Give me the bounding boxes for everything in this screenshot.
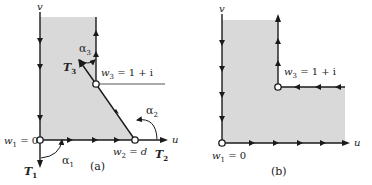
label-t2: T2 [155, 148, 168, 163]
point-w3-b [275, 84, 281, 90]
label-t1: T1 [24, 165, 37, 180]
alpha1-arc-icon [41, 140, 62, 158]
label-w3-a: w3 = 1 + i [101, 67, 153, 81]
arrow-up-icon [275, 14, 281, 22]
t1-arrow-icon [37, 160, 43, 168]
v-axis-label-b: v [219, 3, 225, 14]
label-w2-a: w2 = d [113, 146, 147, 160]
shaded-region-b [222, 20, 345, 143]
alpha2-arc-icon [137, 120, 157, 139]
point-w2-a [132, 137, 138, 143]
point-w3-a [93, 81, 99, 87]
arrow-right-icon [342, 140, 350, 146]
figure-b: v u w1 = 0 w3 = 1 + i (b) [212, 3, 360, 178]
u-axis-label-a: u [172, 134, 178, 145]
label-w1-a: w1 = 0 [4, 135, 38, 149]
shaded-region-a [40, 17, 135, 140]
label-w3-b: w3 = 1 + i [284, 66, 336, 80]
label-alpha1: α1 [62, 154, 74, 169]
u-axis-label-b: u [354, 137, 360, 148]
caption-b: (b) [271, 165, 287, 178]
point-w1-b [219, 140, 225, 146]
diagram-canvas: v u w1 = 0 w2 = d w3 = 1 + i [0, 0, 372, 185]
label-alpha2: α2 [146, 104, 158, 119]
label-w1-b: w1 = 0 [212, 150, 246, 164]
v-axis-label-a: v [37, 1, 43, 12]
figure-a: v u w1 = 0 w2 = d w3 = 1 + i [4, 1, 178, 180]
t2-arrow-icon [160, 137, 168, 143]
caption-a: (a) [90, 160, 105, 173]
